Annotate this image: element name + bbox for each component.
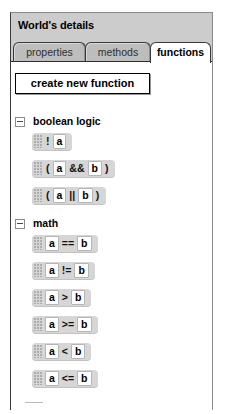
parameter-slot[interactable]: b — [77, 236, 91, 251]
parameter-slot[interactable]: b — [78, 188, 92, 203]
operator-token: ) — [103, 162, 111, 175]
operator-token: <= — [60, 372, 76, 385]
function-block-row: a>=b — [32, 316, 98, 335]
drag-handle-icon[interactable] — [34, 162, 42, 175]
function-block-not[interactable]: !a — [32, 133, 72, 150]
parameter-slot[interactable]: a — [53, 134, 67, 149]
list-bottom-divider — [25, 402, 43, 403]
parameter-slot[interactable]: a — [53, 188, 67, 203]
drag-handle-icon[interactable] — [34, 291, 42, 304]
function-block-gte[interactable]: a>=b — [32, 316, 98, 333]
functions-tab-panel: create new function boolean logic!a(a&&b… — [11, 62, 212, 410]
operator-token: != — [60, 264, 74, 277]
tab-strip: properties methods functions — [11, 41, 212, 62]
function-block-and[interactable]: (a&&b) — [32, 160, 115, 177]
parameter-slot[interactable]: a — [45, 236, 59, 251]
parameter-slot[interactable]: b — [71, 290, 85, 305]
parameter-slot[interactable]: a — [45, 371, 59, 386]
tab-properties[interactable]: properties — [13, 42, 86, 62]
parameter-slot[interactable]: a — [45, 263, 59, 278]
drag-handle-icon[interactable] — [34, 345, 42, 358]
function-block-row: a!=b — [32, 262, 95, 281]
function-block-row: (a&&b) — [32, 160, 115, 179]
operator-token: >= — [60, 318, 76, 331]
function-block-row: !a — [32, 133, 72, 152]
parameter-slot[interactable]: a — [53, 161, 67, 176]
function-block-neq[interactable]: a!=b — [32, 262, 95, 279]
function-group-math: matha==ba!=ba>ba>=ba<ba<=b — [11, 217, 212, 397]
function-block-gt[interactable]: a>b — [32, 289, 91, 306]
screen-root: World's details properties methods funct… — [0, 0, 227, 414]
function-block-or[interactable]: (a||b) — [32, 187, 106, 204]
function-block-row: a<=b — [32, 370, 98, 389]
parameter-slot[interactable]: a — [45, 344, 59, 359]
operator-token: || — [67, 189, 77, 202]
drag-handle-icon[interactable] — [34, 189, 42, 202]
collapse-minus-icon[interactable] — [15, 219, 25, 229]
parameter-slot[interactable]: b — [71, 344, 85, 359]
function-block-row: a>b — [32, 289, 91, 308]
operator-token: > — [60, 291, 70, 304]
operator-token: == — [60, 237, 76, 250]
panel-title-bar: World's details — [11, 13, 212, 41]
create-new-function-button[interactable]: create new function — [15, 73, 150, 94]
drag-handle-icon[interactable] — [34, 318, 42, 331]
tab-methods[interactable]: methods — [85, 42, 151, 62]
drag-handle-icon[interactable] — [34, 135, 42, 148]
group-label: math — [33, 217, 58, 229]
function-block-lte[interactable]: a<=b — [32, 370, 98, 387]
parameter-slot[interactable]: b — [88, 161, 102, 176]
operator-token: ( — [44, 162, 52, 175]
function-block-eq[interactable]: a==b — [32, 235, 98, 252]
drag-handle-icon[interactable] — [34, 372, 42, 385]
parameter-slot[interactable]: a — [45, 317, 59, 332]
function-block-lt[interactable]: a<b — [32, 343, 91, 360]
page-title: World's details — [18, 19, 94, 31]
operator-token: && — [67, 162, 86, 175]
group-label: boolean logic — [33, 115, 101, 127]
function-block-row: (a||b) — [32, 187, 106, 206]
drag-handle-icon[interactable] — [34, 264, 42, 277]
function-block-row: a<b — [32, 343, 91, 362]
tab-functions[interactable]: functions — [150, 42, 211, 63]
operator-token: ! — [44, 135, 52, 148]
parameter-slot[interactable]: b — [77, 371, 91, 386]
parameter-slot[interactable]: b — [77, 317, 91, 332]
drag-handle-icon[interactable] — [34, 237, 42, 250]
group-header-boolean-logic[interactable]: boolean logic — [11, 115, 212, 130]
operator-token: < — [60, 345, 70, 358]
parameter-slot[interactable]: a — [45, 290, 59, 305]
collapse-minus-icon[interactable] — [15, 117, 25, 127]
function-group-boolean-logic: boolean logic!a(a&&b)(a||b) — [11, 115, 212, 214]
function-block-row: a==b — [32, 235, 98, 254]
parameter-slot[interactable]: b — [74, 263, 88, 278]
group-header-math[interactable]: math — [11, 217, 212, 232]
worlds-details-panel: World's details properties methods funct… — [10, 12, 213, 410]
operator-token: ) — [94, 189, 102, 202]
operator-token: ( — [44, 189, 52, 202]
